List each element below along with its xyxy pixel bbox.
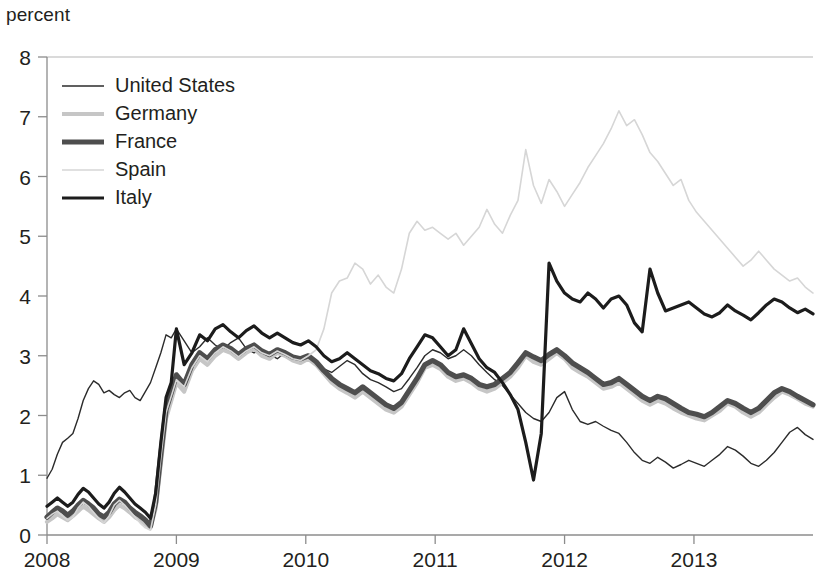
y-axis-ticks: 012345678	[19, 46, 47, 547]
legend-label-france: France	[115, 130, 177, 152]
legend-label-united-states: United States	[115, 74, 235, 96]
y-tick-label: 1	[19, 464, 31, 487]
x-tick-label: 2011	[413, 548, 458, 570]
y-tick-label: 0	[19, 524, 31, 547]
x-tick-label: 2013	[671, 548, 718, 570]
y-tick-label: 5	[19, 225, 31, 248]
x-tick-label: 2009	[153, 548, 200, 570]
x-tick-label: 2012	[541, 548, 588, 570]
x-axis-ticks: 200820092010201120122013	[24, 535, 718, 570]
y-tick-label: 2	[19, 405, 31, 428]
chart-figure: percent 012345678 2008200920102011201220…	[0, 0, 819, 570]
y-tick-label: 6	[19, 166, 31, 189]
y-tick-label: 8	[19, 46, 31, 69]
y-tick-label: 4	[19, 285, 31, 308]
series-line-italy	[47, 263, 813, 518]
legend-label-germany: Germany	[115, 102, 197, 124]
x-tick-label: 2008	[24, 548, 71, 570]
y-tick-label: 3	[19, 345, 31, 368]
legend-label-spain: Spain	[115, 158, 166, 180]
line-chart-plot: 012345678 200820092010201120122013 Unite…	[0, 0, 819, 570]
chart-legend: United StatesGermanyFranceSpainItaly	[62, 74, 235, 208]
legend-label-italy: Italy	[115, 186, 152, 208]
y-tick-label: 7	[19, 106, 31, 129]
x-tick-label: 2010	[282, 548, 329, 570]
